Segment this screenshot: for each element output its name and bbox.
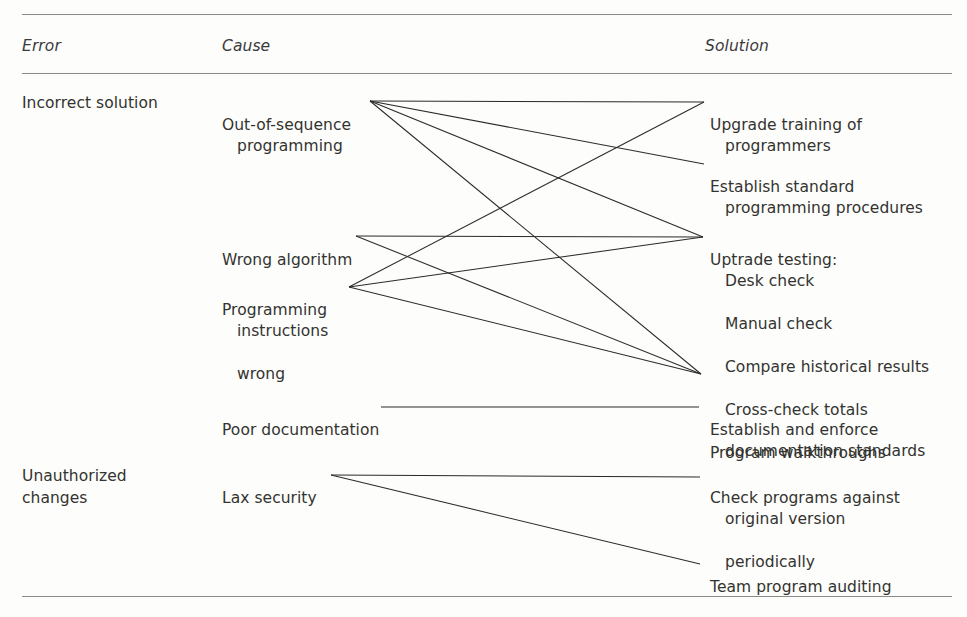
connector-programming-instructions-wrong-to-uptrade-testing xyxy=(349,237,703,287)
solution-uptrade-testing-sub-manual-check: Manual check xyxy=(710,314,929,336)
connector-wrong-algorithm-to-uptrade-testing xyxy=(356,236,703,237)
error-unauthorized-changes: Unauthorized changes xyxy=(22,466,197,509)
connector-out-of-sequence-to-establish-standard xyxy=(370,101,704,164)
error-unauthorized-changes-l1: Unauthorized changes xyxy=(22,467,127,507)
connector-wrong-algorithm-to-program-walkthroughs xyxy=(356,236,701,374)
cause-poor-documentation: Poor documentation xyxy=(222,398,379,441)
cause-lax-security-line1: Lax security xyxy=(222,489,317,507)
solution-establish-enforce-line1: Establish and enforce xyxy=(710,421,878,439)
solution-uptrade-testing-sub-desk-check: Desk check xyxy=(710,271,929,293)
cause-wrong-algorithm-line1: Wrong algorithm xyxy=(222,251,352,269)
cause-out-of-sequence: Out-of-sequence programming xyxy=(222,93,351,179)
connector-programming-instructions-wrong-to-upgrade-training xyxy=(349,102,704,287)
solution-uptrade-testing-line1: Uptrade testing: xyxy=(710,251,837,269)
cause-lax-security: Lax security xyxy=(222,466,317,509)
solution-establish-standard-line1: Establish standard xyxy=(710,178,854,196)
table-header-rule xyxy=(22,73,952,74)
solution-check-programs-line1: Check programs against xyxy=(710,489,900,507)
column-header-error: Error xyxy=(22,37,61,55)
solution-upgrade-training-line1: Upgrade training of xyxy=(710,116,862,134)
connector-out-of-sequence-to-program-walkthroughs xyxy=(370,101,701,374)
table-top-rule xyxy=(22,14,952,15)
cause-poor-documentation-line1: Poor documentation xyxy=(222,421,379,439)
column-header-solution: Solution xyxy=(705,37,769,55)
solution-team-program-auditing: Team program auditing xyxy=(710,555,892,598)
cause-programming-instructions-line1: Programming xyxy=(222,301,327,319)
column-header-cause: Cause xyxy=(222,37,270,55)
solution-establish-standard-line2: programming procedures xyxy=(710,198,923,220)
cause-wrong-algorithm: Wrong algorithm xyxy=(222,228,352,271)
solution-team-program-auditing-line1: Team program auditing xyxy=(710,578,892,596)
connector-lax-security-to-check-programs xyxy=(331,475,700,477)
cause-programming-instructions-line2: instructions xyxy=(222,321,328,343)
connector-lax-security-to-team-program-auditing xyxy=(331,475,700,564)
error-cause-solution-table: Error Cause Solution Incorrect solution … xyxy=(0,0,967,617)
solution-establish-enforce-line2: documentation standards xyxy=(710,441,925,463)
connector-out-of-sequence-to-upgrade-training xyxy=(370,101,704,102)
cause-out-of-sequence-line1: Out-of-sequence xyxy=(222,116,351,134)
cause-programming-instructions-wrong: Programming instructions wrong xyxy=(222,278,328,407)
connector-out-of-sequence-to-uptrade-testing xyxy=(370,101,703,237)
error-incorrect-solution: Incorrect solution xyxy=(22,93,158,115)
solution-check-programs-line2: original version xyxy=(710,509,900,531)
connector-programming-instructions-wrong-to-program-walkthroughs xyxy=(349,287,701,374)
solution-uptrade-testing-sub-compare-historical-results: Compare historical results xyxy=(710,357,929,379)
cause-programming-instructions-line3: wrong xyxy=(222,364,328,386)
cause-out-of-sequence-line2: programming xyxy=(222,136,351,158)
